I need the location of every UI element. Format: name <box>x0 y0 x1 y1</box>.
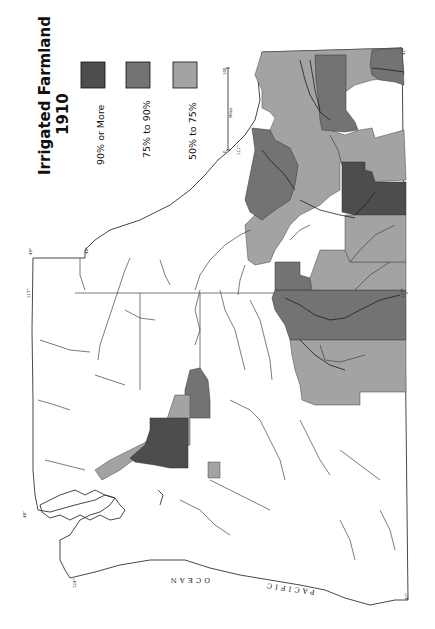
legend-title-line2: 1910 <box>54 93 72 135</box>
scale-unit: Miles <box>228 108 233 118</box>
tick-lat-49: 49° <box>28 248 33 255</box>
tick-lat-42: 42° <box>401 48 406 55</box>
tick-lat-48-b: 48° <box>22 511 27 518</box>
tick-lon-124: 124° <box>72 578 77 588</box>
legend-swatch-50 <box>173 62 197 88</box>
legend-label-90: 90% or More <box>95 104 106 165</box>
legend-swatch-75 <box>126 62 150 88</box>
scale-bar: 0 100 Miles <box>222 67 233 153</box>
puget-sound <box>40 490 163 520</box>
legend-title-line1: Irrigated Farmland <box>36 16 54 175</box>
scale-end: 100 <box>222 67 227 75</box>
tick-lon-117: 117° <box>26 288 31 298</box>
tick-lon-117-b: 117° <box>400 288 405 298</box>
legend-swatch-90 <box>81 62 105 88</box>
map-canvas: Irrigated Farmland 1910 90% or More 75% … <box>0 0 435 629</box>
tick-lat-48: 48° <box>84 247 89 254</box>
legend-label-75: 75% to 90% <box>141 100 152 158</box>
ocean-label-ocean: OCEAN <box>168 576 210 584</box>
tick-lon-111: 111° <box>236 145 241 155</box>
ocean-labels: OCEAN PACIFIC <box>168 576 316 596</box>
legend-label-50: 50% to 75% <box>187 102 198 160</box>
irrigated-farmland-map: Irrigated Farmland 1910 90% or More 75% … <box>0 0 435 629</box>
legend: Irrigated Farmland 1910 90% or More 75% … <box>36 16 233 175</box>
tick-lat-42-b: 42° <box>404 593 409 600</box>
